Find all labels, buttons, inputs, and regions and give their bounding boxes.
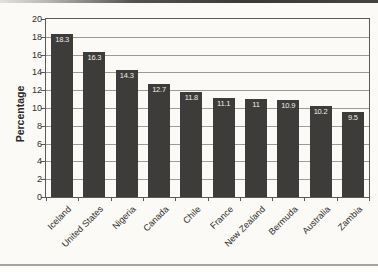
bar-value-label: 11.1: [213, 99, 235, 108]
x-axis-tick: [272, 197, 273, 201]
bar-value-label: 12.7: [148, 85, 170, 94]
x-axis-label: Nigeria: [111, 204, 138, 231]
bar-value-label: 11.8: [180, 93, 202, 102]
y-axis-tick-label: 12: [10, 85, 42, 95]
x-axis-tick: [175, 197, 176, 201]
bar-value-label: 9.5: [342, 113, 364, 122]
gridline: [46, 37, 369, 38]
x-axis-label: Zambia: [336, 204, 364, 232]
scanned-figure-page: Percentage 18.316.314.312.711.811.11110.…: [0, 0, 378, 272]
x-axis-label: Iceland: [46, 204, 74, 232]
x-axis-tick: [369, 197, 370, 201]
bar-value-label: 11: [245, 100, 267, 109]
bar: 9.5: [342, 112, 364, 197]
bar: 18.3: [51, 34, 73, 197]
x-axis-tick: [337, 197, 338, 201]
x-axis-tick: [111, 197, 112, 201]
x-axis-label: Chile: [181, 204, 203, 226]
x-axis-tick: [46, 197, 47, 201]
y-axis-tick-label: 0: [10, 192, 42, 202]
y-axis-tick-label: 20: [10, 14, 42, 24]
x-axis-tick: [208, 197, 209, 201]
x-axis-label: Bermuda: [266, 204, 299, 237]
y-axis-tick-label: 16: [10, 50, 42, 60]
bar: 16.3: [83, 52, 105, 197]
bar: 14.3: [116, 70, 138, 197]
y-axis-tick-label: 8: [10, 121, 42, 131]
bar: 12.7: [148, 84, 170, 197]
x-axis-tick: [304, 197, 305, 201]
bar-value-label: 18.3: [51, 35, 73, 44]
bar-value-label: 10.2: [310, 107, 332, 116]
bar: 11.8: [180, 92, 202, 197]
x-axis-tick: [143, 197, 144, 201]
x-axis-label: France: [208, 204, 235, 231]
bar: 10.2: [310, 106, 332, 197]
x-axis-tick: [240, 197, 241, 201]
bar: 10.9: [277, 100, 299, 197]
bar-value-label: 10.9: [277, 101, 299, 110]
y-axis-tick-label: 14: [10, 67, 42, 77]
y-axis-tick-label: 4: [10, 156, 42, 166]
y-axis-tick-label: 18: [10, 32, 42, 42]
top-border-line: [0, 0, 378, 3]
x-axis-tick: [78, 197, 79, 201]
x-axis-label: Canada: [141, 204, 170, 233]
plot-area: 18.316.314.312.711.811.11110.910.29.5: [45, 18, 370, 198]
bar: 11: [245, 99, 267, 197]
bar: 11.1: [213, 98, 235, 197]
y-axis-tick-label: 6: [10, 139, 42, 149]
y-axis-tick-label: 10: [10, 103, 42, 113]
bar-value-label: 16.3: [83, 53, 105, 62]
y-axis-tick-label: 2: [10, 174, 42, 184]
x-axis-label: Australia: [300, 204, 332, 236]
page-margin: [0, 266, 378, 272]
bar-value-label: 14.3: [116, 71, 138, 80]
